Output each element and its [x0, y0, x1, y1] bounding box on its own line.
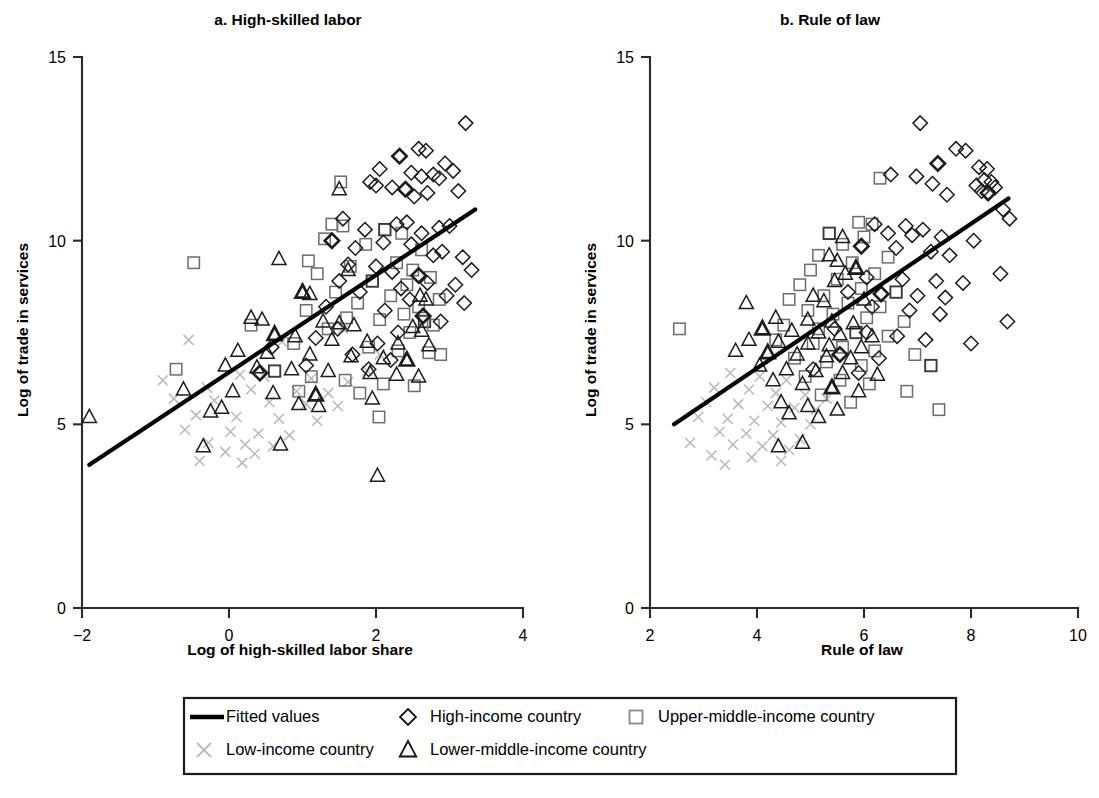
marker-high-income: [889, 241, 903, 255]
marker-low-income: [776, 456, 786, 466]
marker-lower-middle-income: [365, 391, 379, 404]
marker-low-income: [707, 451, 717, 461]
marker-high-income: [392, 149, 406, 163]
marker-lower-middle-income: [370, 468, 384, 481]
marker-lower-middle-income: [836, 365, 850, 378]
marker-lower-middle-income: [801, 398, 815, 411]
marker-low-income: [728, 440, 738, 450]
marker-low-income: [781, 375, 791, 385]
y-tick-label: 10: [616, 233, 634, 250]
marker-high-income: [411, 142, 425, 156]
marker-low-income: [744, 384, 754, 394]
marker-upper-middle-income: [898, 316, 909, 327]
marker-lower-middle-income: [266, 386, 280, 399]
panel-a-title: a. High-skilled labor: [214, 11, 361, 28]
marker-lower-middle-income: [284, 362, 298, 375]
panel-b-x-axis-title: Rule of law: [821, 641, 904, 658]
marker-high-income: [325, 233, 339, 247]
marker-high-income: [964, 336, 978, 350]
marker-high-income: [931, 156, 945, 170]
marker-lower-middle-income: [82, 409, 96, 422]
marker-lower-middle-income: [774, 395, 788, 408]
marker-high-income: [457, 296, 471, 310]
panel-b-y-axis-title: Log of trade in services: [582, 243, 599, 417]
marker-lower-middle-income: [231, 343, 245, 356]
marker-lower-middle-income: [390, 367, 404, 380]
marker-lower-middle-income: [729, 343, 743, 356]
legend-square-icon: [630, 711, 643, 724]
marker-high-income: [456, 250, 470, 264]
marker-upper-middle-income: [861, 312, 872, 323]
marker-high-income: [854, 239, 868, 253]
marker-low-income: [246, 384, 256, 394]
panel-a: a. High-skilled labor Log of trade in se…: [14, 11, 528, 658]
marker-upper-middle-income: [435, 349, 446, 360]
marker-high-income: [414, 226, 428, 240]
marker-upper-middle-income: [300, 305, 311, 316]
marker-lower-middle-income: [303, 347, 317, 360]
marker-high-income: [1002, 211, 1016, 225]
marker-lower-middle-income: [849, 261, 863, 274]
marker-upper-middle-income: [170, 364, 181, 375]
marker-high-income: [439, 289, 453, 303]
marker-high-income: [358, 222, 372, 236]
marker-high-income: [881, 226, 895, 240]
marker-low-income: [240, 440, 250, 450]
panel-b-title: b. Rule of law: [780, 11, 881, 28]
y-tick-label: 0: [57, 600, 66, 617]
marker-upper-middle-income: [901, 386, 912, 397]
marker-low-income: [284, 430, 294, 440]
marker-upper-middle-income: [794, 279, 805, 290]
marker-upper-middle-income: [882, 330, 893, 341]
marker-lower-middle-income: [771, 439, 785, 452]
marker-low-income: [723, 414, 733, 424]
marker-lower-middle-income: [766, 373, 780, 386]
panel-a-y-axis-title: Log of trade in services: [14, 243, 31, 417]
panel-a-y-ticks: 051015: [48, 49, 82, 617]
marker-lower-middle-income: [341, 262, 355, 275]
marker-lower-middle-income: [244, 310, 258, 323]
legend-items: Fitted valuesHigh-income countryUpper-mi…: [190, 707, 875, 758]
marker-upper-middle-income: [909, 349, 920, 360]
marker-high-income: [925, 177, 939, 191]
marker-high-income: [872, 351, 886, 365]
marker-low-income: [749, 416, 759, 426]
marker-upper-middle-income: [312, 268, 323, 279]
marker-high-income: [913, 116, 927, 130]
marker-low-income: [715, 427, 725, 437]
marker-low-income: [685, 438, 695, 448]
marker-high-income: [448, 278, 462, 292]
marker-high-income: [993, 267, 1007, 281]
figure-container: a. High-skilled labor Log of trade in se…: [0, 0, 1099, 798]
panel-b: b. Rule of law Log of trade in services …: [582, 11, 1087, 658]
marker-low-income: [225, 427, 235, 437]
marker-low-income: [725, 368, 735, 378]
marker-upper-middle-income: [925, 360, 936, 371]
panel-b-y-ticks: 051015: [616, 49, 650, 617]
legend-label: Low-income country: [226, 740, 374, 758]
marker-high-income: [942, 248, 956, 262]
marker-upper-middle-income: [385, 290, 396, 301]
marker-low-income: [195, 456, 205, 466]
y-tick-label: 15: [616, 49, 634, 66]
x-tick-label: −2: [73, 627, 91, 644]
x-tick-label: 10: [1069, 627, 1087, 644]
marker-high-income: [905, 228, 919, 242]
marker-lower-middle-income: [769, 310, 783, 323]
marker-high-income: [464, 263, 478, 277]
y-tick-label: 5: [625, 416, 634, 433]
marker-lower-middle-income: [309, 387, 323, 400]
marker-low-income: [191, 410, 201, 420]
marker-low-income: [274, 414, 284, 424]
marker-high-income: [899, 219, 913, 233]
marker-upper-middle-income: [398, 308, 409, 319]
chart-legend: Fitted valuesHigh-income countryUpper-mi…: [184, 698, 956, 774]
scatter-figure-svg: a. High-skilled labor Log of trade in se…: [0, 0, 1099, 798]
marker-high-income: [918, 333, 932, 347]
marker-low-income: [333, 401, 343, 411]
marker-high-income: [938, 290, 952, 304]
marker-low-income: [720, 460, 730, 470]
marker-low-income: [237, 458, 247, 468]
marker-low-income: [231, 412, 241, 422]
marker-lower-middle-income: [833, 327, 847, 340]
